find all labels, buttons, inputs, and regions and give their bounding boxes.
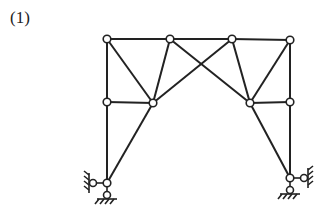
truss-member <box>107 103 153 183</box>
truss-diagram <box>0 0 329 222</box>
node-joint-H <box>286 98 294 106</box>
node-joint-I <box>103 179 111 187</box>
truss-members <box>107 39 290 183</box>
truss-member <box>153 39 170 103</box>
support-hinge-left-icon <box>84 171 103 193</box>
node-joint-B <box>166 35 174 43</box>
truss-member <box>232 39 290 40</box>
truss-member <box>250 102 290 103</box>
node-joint-E <box>103 98 111 106</box>
truss-member <box>232 39 250 103</box>
truss-member <box>107 39 153 103</box>
truss-member <box>250 103 290 178</box>
node-joint-A <box>103 35 111 43</box>
truss-member <box>170 39 250 103</box>
supports <box>84 166 313 204</box>
support-hinge-bottom-icon <box>278 182 300 199</box>
node-joint-J <box>286 174 294 182</box>
node-joint-G <box>246 99 254 107</box>
truss-nodes <box>103 35 294 187</box>
truss-member <box>250 40 290 103</box>
truss-member <box>153 39 232 103</box>
node-joint-C <box>228 35 236 43</box>
node-joint-F <box>149 99 157 107</box>
truss-member <box>107 102 153 103</box>
support-hinge-right-icon <box>294 166 313 188</box>
support-hinge-bottom-icon <box>95 187 117 204</box>
node-joint-D <box>286 36 294 44</box>
